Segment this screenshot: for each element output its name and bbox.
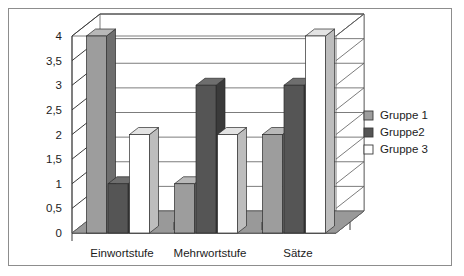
y-tick-label: 2,5: [46, 104, 62, 116]
legend-swatch: [364, 128, 373, 137]
y-tick-labels: 00,511,522,533,54: [46, 30, 63, 239]
bar-chart-3d: 00,511,522,533,54 EinwortstufeMehrwortst…: [0, 0, 464, 276]
legend-swatch: [364, 111, 373, 120]
y-tick-label: 0: [56, 227, 62, 239]
bar: [218, 128, 247, 234]
bar-side-face: [326, 29, 335, 233]
bar-side-face: [238, 128, 247, 234]
y-tick-label: 3: [56, 79, 62, 91]
legend-item[interactable]: Gruppe 3: [364, 143, 428, 155]
x-category-label: Einwortstufe: [90, 247, 153, 259]
bar-front-face: [108, 184, 128, 233]
y-tick-label: 1,5: [46, 153, 62, 165]
bar-front-face: [175, 184, 195, 233]
legend-label: Gruppe 3: [380, 143, 428, 155]
chart-container: 00,511,522,533,54 EinwortstufeMehrwortst…: [0, 0, 464, 276]
bar-front-face: [196, 85, 216, 233]
bar: [306, 29, 335, 233]
legend-swatch: [364, 145, 373, 154]
bar-side-face: [150, 128, 159, 234]
legend-label: Gruppe 1: [380, 109, 428, 121]
bar-front-face: [87, 36, 107, 233]
bar-front-face: [306, 36, 326, 233]
y-tick-label: 0,5: [46, 202, 62, 214]
bar-front-face: [218, 135, 238, 234]
y-tick-label: 2: [56, 129, 62, 141]
bar-front-face: [130, 135, 150, 234]
y-tick-label: 1: [56, 178, 62, 190]
legend-label: Gruppe2: [380, 126, 425, 138]
x-category-label: Mehrwortstufe: [174, 247, 247, 259]
legend-item[interactable]: Gruppe2: [364, 126, 425, 138]
bar: [130, 128, 159, 234]
x-category-label: Sätze: [283, 247, 312, 259]
chart-legend: Gruppe 1Gruppe2Gruppe 3: [364, 109, 428, 155]
y-tick-label: 3,5: [46, 55, 62, 67]
bar-front-face: [263, 135, 283, 234]
bar-front-face: [284, 85, 304, 233]
y-tick-label: 4: [56, 30, 63, 42]
legend-item[interactable]: Gruppe 1: [364, 109, 428, 121]
